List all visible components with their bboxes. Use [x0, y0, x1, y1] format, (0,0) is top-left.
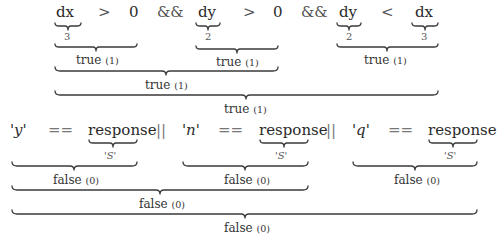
- operand-dx: dx: [56, 5, 74, 20]
- result-label: false (0): [394, 174, 440, 186]
- underbrace-icon: [55, 23, 81, 31]
- underbrace-icon: [337, 44, 438, 52]
- value-dy: 2: [205, 32, 211, 42]
- result-label: false (0): [224, 174, 270, 186]
- operator-eq: ==: [48, 123, 73, 138]
- underbrace-icon: [55, 67, 278, 76]
- result-label: true (1): [364, 54, 407, 66]
- result-label: true (1): [76, 54, 119, 66]
- operand-zero: 0: [273, 5, 283, 20]
- underbrace-icon: [12, 186, 308, 195]
- result-label: false (0): [139, 198, 185, 210]
- operator-gt: >: [243, 5, 256, 20]
- result-label: false (0): [224, 222, 270, 234]
- operand-dy: dy: [198, 5, 216, 20]
- underbrace-icon: [55, 44, 137, 52]
- operand-response: response: [428, 123, 497, 138]
- operand-response: response: [88, 123, 157, 138]
- underbrace-icon: [353, 162, 477, 171]
- value-response: 'S': [444, 151, 456, 161]
- underbrace-icon: [412, 23, 438, 31]
- operator-and: &&: [301, 5, 328, 20]
- underbrace-icon: [183, 162, 308, 171]
- char-literal-y: 'y': [10, 123, 27, 138]
- value-dx: 3: [64, 32, 70, 42]
- underbrace-icon: [12, 162, 137, 171]
- underbrace-icon: [89, 140, 137, 148]
- value-response: 'S': [104, 151, 116, 161]
- result-label: false (0): [53, 174, 99, 186]
- operand-dx: dx: [415, 5, 433, 20]
- operator-eq: ==: [388, 123, 413, 138]
- operator-lt: <: [381, 5, 394, 20]
- underbrace-icon: [429, 140, 477, 148]
- underbrace-icon: [337, 23, 361, 31]
- result-label: true (1): [145, 79, 188, 91]
- underbrace-icon: [260, 140, 308, 148]
- char-literal-q: 'q': [352, 123, 370, 138]
- char-literal-n: 'n': [182, 123, 200, 138]
- operator-eq: ==: [218, 123, 243, 138]
- result-label: true (1): [224, 103, 267, 115]
- operand-response: response: [259, 123, 328, 138]
- value-dx: 3: [421, 32, 427, 42]
- operator-or: ||: [326, 123, 336, 138]
- underbrace-icon: [196, 46, 278, 54]
- value-dy: 2: [346, 32, 352, 42]
- operator-or: ||: [156, 123, 166, 138]
- operator-gt: >: [98, 5, 111, 20]
- underbrace-icon: [12, 210, 477, 219]
- operator-and: &&: [157, 5, 184, 20]
- operand-zero: 0: [129, 5, 139, 20]
- underbrace-icon: [55, 91, 438, 100]
- value-response: 'S': [275, 151, 287, 161]
- operand-dy: dy: [339, 5, 357, 20]
- underbrace-icon: [196, 23, 220, 31]
